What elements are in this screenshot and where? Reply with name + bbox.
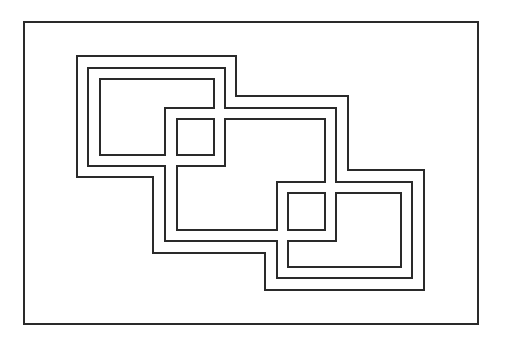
top-left-small-square: [177, 119, 214, 155]
shape-group: [77, 56, 424, 290]
outer-band-outline: [77, 56, 424, 290]
top-left-inner-room: [100, 79, 214, 155]
bottom-right-small-square: [288, 193, 325, 230]
center-room: [177, 119, 325, 230]
border-frame: [24, 22, 478, 324]
interlocking-rectangles-diagram: [0, 0, 509, 346]
middle-band-outline: [88, 68, 412, 278]
